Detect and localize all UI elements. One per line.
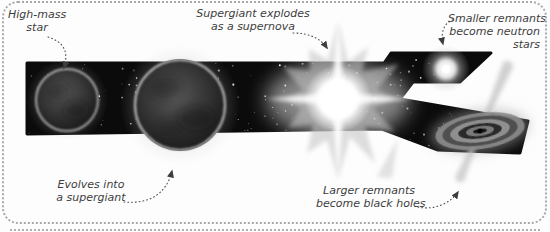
arrow-supernova [293, 33, 327, 48]
label-line: a supergiant [50, 191, 132, 204]
supernova-debris-cone [377, 138, 398, 178]
label-supernova: Supergiant explodes as a supernova [194, 7, 312, 33]
label-line: become neutron [448, 25, 540, 38]
label-line: star [8, 21, 66, 34]
label-line: Supergiant explodes [194, 7, 312, 20]
label-line: Smaller remnants [448, 12, 540, 25]
label-line: become black holes [316, 197, 422, 210]
high-mass-star-graphic [26, 59, 108, 141]
label-supergiant: Evolves into a supergiant [50, 178, 132, 204]
stellar-evolution-card: High-mass star Supergiant explodes as a … [0, 0, 550, 232]
label-neutron-star: Smaller remnants become neutron stars [448, 12, 540, 51]
label-line: Evolves into [50, 178, 132, 191]
label-line: Larger remnants [316, 184, 422, 197]
label-black-hole: Larger remnants become black holes [316, 184, 422, 210]
neutron-star-graphic [422, 45, 470, 93]
label-line: as a supernova [194, 20, 312, 33]
label-high-mass-star: High-mass star [8, 8, 66, 34]
label-line: stars [448, 38, 540, 51]
next-section-border [10, 229, 540, 231]
label-line: High-mass [8, 8, 66, 21]
supergiant-graphic [120, 45, 240, 165]
